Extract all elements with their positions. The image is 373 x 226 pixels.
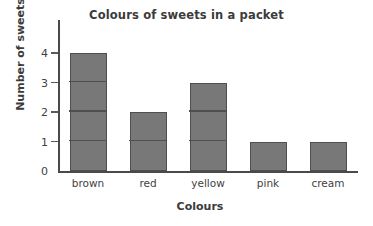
plot-area: 01234 brownredyellowpinkcream xyxy=(58,20,358,173)
bar-cream xyxy=(310,142,347,172)
y-tick-mark xyxy=(51,141,58,143)
x-axis-line xyxy=(58,171,358,173)
x-tick-label-yellow: yellow xyxy=(191,177,225,189)
y-tick-label: 3 xyxy=(41,76,48,89)
bar-gridline xyxy=(189,110,227,112)
x-tick-label-red: red xyxy=(139,177,156,189)
y-axis-line xyxy=(58,20,60,173)
bar-pink xyxy=(250,142,287,172)
y-tick-label: 0 xyxy=(41,165,48,178)
bar-gridline xyxy=(189,140,227,142)
bar-gridline xyxy=(69,140,107,142)
bar-gridline xyxy=(69,110,107,112)
y-tick-label: 1 xyxy=(41,135,48,148)
bar-yellow xyxy=(190,83,227,172)
y-tick-label: 2 xyxy=(41,106,48,119)
bar-chart-figure: Colours of sweets in a packet Number of … xyxy=(0,0,373,226)
x-tick-label-cream: cream xyxy=(312,177,345,189)
y-axis-title: Number of sweets xyxy=(14,0,27,125)
y-tick-mark xyxy=(51,111,58,113)
x-tick-label-brown: brown xyxy=(72,177,104,189)
x-axis-title: Colours xyxy=(40,200,360,213)
bar-gridline xyxy=(69,81,107,83)
y-tick-mark xyxy=(51,52,58,54)
x-tick-label-pink: pink xyxy=(257,177,279,189)
bar-gridline xyxy=(129,140,167,142)
y-tick-mark xyxy=(51,82,58,84)
bar-red xyxy=(130,112,167,171)
bar-brown xyxy=(70,53,107,171)
y-tick-label: 4 xyxy=(41,47,48,60)
